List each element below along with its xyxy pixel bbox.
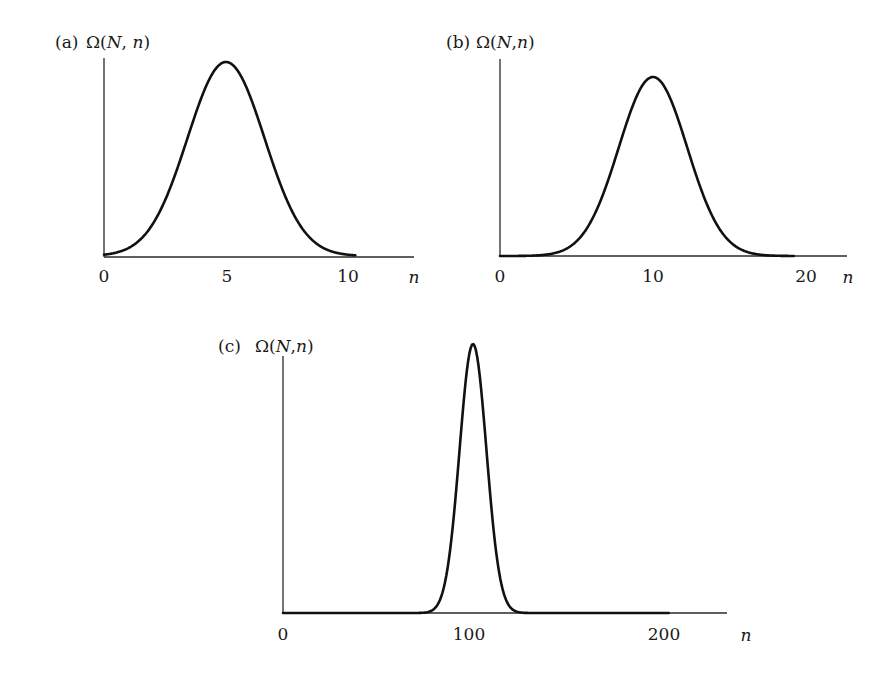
panel-b-tick-1: 10 (642, 266, 664, 286)
panel-b-ylabel: Ω(N,n) (476, 32, 535, 52)
panel-b-tick-2: 20 (795, 266, 817, 286)
panel-b-curve (500, 77, 794, 256)
panel-c-xlabel: n (741, 625, 752, 645)
omega-symbol: Ω( (476, 32, 497, 52)
panel-c-tick-2: 200 (648, 624, 680, 644)
panel-c-curve (283, 344, 669, 613)
panel-a-tick-1: 5 (222, 266, 233, 286)
panel-a-letter: (a) (55, 32, 78, 52)
ylabel-close: ) (528, 32, 535, 52)
panel-c-letter: (c) (218, 336, 241, 356)
omega-symbol: Ω( (86, 32, 107, 52)
panel-a-tick-2: 10 (337, 266, 359, 286)
ylabel-sep: , (122, 32, 133, 52)
ylabel-n: n (517, 32, 528, 52)
figure: (a) Ω(N, n) 0 5 10 n (b) Ω(N,n) 0 10 20 … (0, 0, 896, 674)
panel-a: (a) Ω(N, n) 0 5 10 n (55, 32, 419, 287)
panel-b-letter: (b) (446, 32, 470, 52)
panel-a-curve (104, 62, 355, 255)
ylabel-N: N (275, 336, 292, 356)
ylabel-N: N (106, 32, 123, 52)
panel-a-ylabel: Ω(N, n) (86, 32, 150, 52)
panel-c-tick-1: 100 (453, 624, 485, 644)
panel-c-ylabel: Ω(N,n) (255, 336, 314, 356)
ylabel-n: n (296, 336, 307, 356)
panel-c: (c) Ω(N,n) 0 100 200 n (218, 336, 751, 645)
panel-a-xlabel: n (409, 267, 420, 287)
ylabel-close: ) (307, 336, 314, 356)
panel-b-xlabel: n (843, 267, 854, 287)
ylabel-n: n (132, 32, 143, 52)
panel-b: (b) Ω(N,n) 0 10 20 n (446, 32, 853, 287)
panel-c-tick-0: 0 (278, 624, 289, 644)
omega-symbol: Ω( (255, 336, 276, 356)
panel-b-tick-0: 0 (495, 266, 506, 286)
panel-a-tick-0: 0 (99, 266, 110, 286)
ylabel-N: N (496, 32, 513, 52)
ylabel-close: ) (143, 32, 150, 52)
